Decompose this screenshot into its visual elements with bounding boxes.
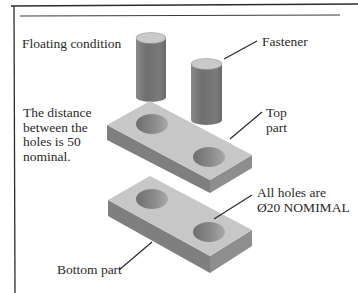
- title-rule: [20, 15, 340, 16]
- leader-top-part: [230, 112, 262, 139]
- fastener-label: Fastener: [262, 34, 308, 49]
- fastener-cylinder-right: [191, 59, 222, 126]
- distance-note-line: holes is 50: [23, 134, 81, 149]
- distance-note-line: nominal.: [23, 149, 71, 164]
- frame-top-border: [11, 4, 358, 6]
- frame-left-border: [14, 6, 15, 293]
- distance-note-line: between the: [23, 120, 88, 135]
- holes-note-line1: All holes are: [257, 185, 326, 200]
- holes-note-line2: Ø20 NOMIMAL: [257, 200, 350, 215]
- top-part-label-line2: part: [266, 120, 287, 135]
- top-plate-hole-right: [193, 147, 225, 167]
- bottom-plate-hole-right: [193, 222, 225, 242]
- leader-fastener: [224, 41, 257, 59]
- leader-bottom-part: [119, 242, 152, 270]
- distance-note-line: The distance: [23, 105, 92, 120]
- top-plate-hole-left: [136, 114, 168, 134]
- bottom-plate-hole-left: [136, 189, 168, 209]
- distance-note: The distance between the holes is 50 nom…: [23, 105, 92, 164]
- floating-condition-label: Floating condition: [22, 36, 122, 51]
- bottom-part-plate: [108, 176, 252, 273]
- top-part-label-line1: Top: [266, 105, 287, 120]
- diagram-floating-condition: Floating condition Fastener Top part The…: [0, 0, 358, 293]
- leader-holes: [214, 195, 252, 219]
- fastener-cylinder-left: [136, 33, 166, 103]
- top-part-plate: [107, 101, 252, 193]
- bottom-part-label: Bottom part: [57, 262, 122, 277]
